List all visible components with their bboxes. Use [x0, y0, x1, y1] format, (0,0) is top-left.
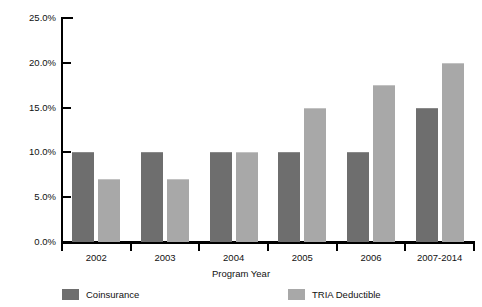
bar-coinsurance-2003	[141, 152, 163, 242]
x-axis-tick	[61, 244, 63, 251]
chart-legend: CoinsuranceTRIA Deductible	[0, 289, 482, 307]
x-axis-tick	[473, 244, 475, 251]
bar-chart: 0.0%5.0%10.0%15.0%20.0%25.0% 20022003200…	[0, 0, 482, 307]
legend-item-tria-deductible: TRIA Deductible	[288, 289, 381, 300]
bar-tria-deductible-2007-2014	[442, 63, 464, 242]
x-axis-tick	[267, 244, 269, 251]
x-axis-tick-label: 2005	[292, 252, 313, 263]
y-axis-tick-label: 25.0%	[10, 12, 56, 23]
bar-tria-deductible-2002	[98, 179, 120, 242]
x-axis-title: Program Year	[0, 268, 482, 279]
y-axis-tick-label: 0.0%	[10, 236, 56, 247]
bar-coinsurance-2004	[210, 152, 232, 242]
bar-tria-deductible-2006	[373, 85, 395, 242]
bar-coinsurance-2005	[278, 152, 300, 242]
bar-coinsurance-2002	[72, 152, 94, 242]
x-axis-tick	[198, 244, 200, 251]
bar-coinsurance-2007-2014	[416, 108, 438, 242]
bar-tria-deductible-2005	[304, 108, 326, 242]
bar-coinsurance-2006	[347, 152, 369, 242]
x-axis-tick-label: 2006	[360, 252, 381, 263]
y-axis-tick-label: 20.0%	[10, 57, 56, 68]
x-axis-tick-label: 2003	[154, 252, 175, 263]
legend-label: Coinsurance	[86, 289, 139, 300]
y-axis-tick-label: 10.0%	[10, 146, 56, 157]
legend-label: TRIA Deductible	[312, 289, 381, 300]
x-axis-tick-label: 2004	[223, 252, 244, 263]
x-axis-tick	[404, 244, 406, 251]
bar-tria-deductible-2003	[167, 179, 189, 242]
x-axis-tick	[336, 244, 338, 251]
legend-item-coinsurance: Coinsurance	[62, 289, 139, 300]
y-axis-tick-label: 15.0%	[10, 102, 56, 113]
x-axis-tick	[130, 244, 132, 251]
y-axis-tick-label: 5.0%	[10, 191, 56, 202]
plot-area	[62, 18, 474, 242]
x-axis-tick-label: 2007-2014	[417, 252, 462, 263]
bar-tria-deductible-2004	[236, 152, 258, 242]
x-axis-tick-label: 2002	[86, 252, 107, 263]
legend-swatch-icon	[288, 289, 305, 300]
legend-swatch-icon	[62, 289, 79, 300]
